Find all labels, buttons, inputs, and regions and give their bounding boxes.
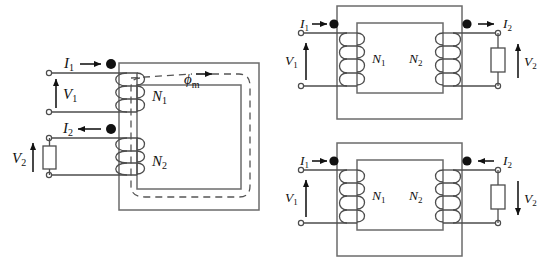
secondary-winding — [116, 138, 145, 175]
tr-primary-turns-label: N1 — [371, 51, 386, 68]
secondary-current-label: I2 — [62, 120, 73, 138]
br-secondary-current-label: I2 — [502, 153, 512, 170]
primary-winding — [116, 73, 145, 112]
br-secondary-winding — [436, 170, 461, 223]
primary-top-terminal — [46, 70, 51, 75]
br-secondary-voltage-label: V2 — [524, 191, 537, 208]
tr-secondary-current-label: I2 — [502, 16, 512, 33]
br-load-resistor — [491, 185, 505, 209]
diagram-shell-transformer-subtractive: I1 V1 N1 N2 I2 V2 — [285, 143, 537, 256]
secondary-voltage-label: V2 — [12, 150, 26, 168]
tr-primary-voltage-label: V1 — [285, 53, 298, 70]
tr-secondary-turns-label: N2 — [408, 51, 423, 68]
br-core-window-rect — [357, 160, 443, 230]
diagram-core-type-transformer: ϕm I1 V1 N1 — [12, 55, 259, 210]
primary-polarity-dot — [106, 59, 116, 69]
br-primary-turns-label: N1 — [371, 188, 386, 205]
tr-secondary-voltage-label: V2 — [524, 54, 537, 71]
br-primary-polarity-dot — [329, 156, 338, 165]
primary-turns-label: N1 — [151, 88, 167, 106]
primary-bottom-terminal — [46, 109, 51, 114]
tr-secondary-polarity-dot — [462, 19, 471, 28]
br-secondary-turns-label: N2 — [408, 188, 423, 205]
secondary-turns-label: N2 — [151, 153, 167, 171]
flux-path-top-right — [131, 74, 250, 197]
tr-primary-bottom-terminal — [298, 83, 303, 88]
br-primary-bottom-terminal — [298, 220, 303, 225]
tr-primary-polarity-dot — [329, 19, 338, 28]
tr-primary-top-terminal — [298, 30, 303, 35]
br-secondary-polarity-dot — [462, 156, 471, 165]
tr-secondary-winding — [436, 33, 461, 86]
br-primary-top-terminal — [298, 167, 303, 172]
br-primary-voltage-label: V1 — [285, 190, 298, 207]
flux-path — [131, 74, 192, 78]
br-primary-current-label: I1 — [299, 153, 309, 170]
primary-voltage-label: V1 — [63, 86, 77, 104]
tr-primary-current-label: I1 — [299, 16, 309, 33]
tr-core-window-rect — [357, 23, 443, 93]
br-primary-winding — [340, 170, 365, 223]
diagram-shell-transformer-additive: I1 V1 N1 N2 I2 V2 — [285, 6, 537, 119]
tr-primary-winding — [340, 33, 365, 86]
figure-canvas: ϕm I1 V1 N1 — [0, 0, 552, 262]
load-resistor — [43, 146, 56, 169]
tr-load-resistor — [491, 48, 505, 72]
secondary-polarity-dot — [106, 124, 116, 134]
primary-current-label: I1 — [63, 55, 74, 73]
